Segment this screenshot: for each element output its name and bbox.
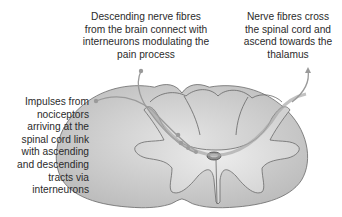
- label-line: with ascending: [0, 146, 89, 159]
- label-line: arriving at the: [0, 121, 89, 134]
- label-line: the spinal cord and: [240, 24, 336, 37]
- interneuron-dot: [176, 133, 181, 138]
- label-descending-fibres: Descending nerve fibres from the brain c…: [78, 11, 214, 61]
- label-line: spinal cord link: [0, 134, 89, 147]
- label-line: interneurons: [0, 184, 89, 197]
- label-line: tracts via: [0, 172, 89, 185]
- label-line: nociceptors: [0, 109, 89, 122]
- label-nociceptor-impulses: Impulses from nociceptors arriving at th…: [0, 96, 89, 197]
- label-line: Nerve fibres cross: [240, 11, 336, 24]
- interneuron-dot: [194, 150, 198, 154]
- label-line: and descending: [0, 159, 89, 172]
- label-line: Descending nerve fibres: [78, 11, 214, 24]
- label-line: pain process: [78, 49, 214, 62]
- label-line: from the brain connect with: [78, 24, 214, 37]
- label-line: thalamus: [240, 49, 336, 62]
- interneuron-dot: [186, 146, 190, 150]
- label-line: interneurons modulating the: [78, 36, 214, 49]
- ascending-arrowhead: [305, 67, 311, 73]
- label-ascending-fibres: Nerve fibres cross the spinal cord and a…: [240, 11, 336, 61]
- label-line: Impulses from: [0, 96, 89, 109]
- label-line: ascend towards the: [240, 36, 336, 49]
- interneuron-dot: [179, 141, 184, 146]
